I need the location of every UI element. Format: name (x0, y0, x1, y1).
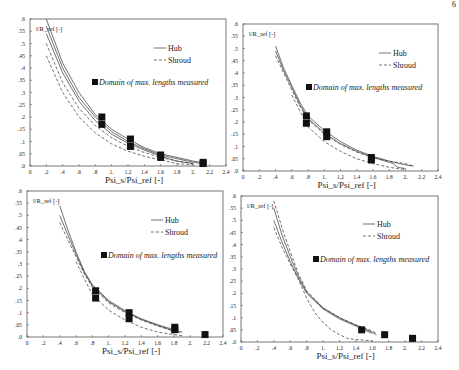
annotation-marker-icon (92, 79, 98, 85)
measured-domain-marker (126, 315, 133, 322)
x-axis-label: Psi_s/Psi_ref [-] (102, 346, 160, 356)
y-tick-label: .6 (18, 188, 22, 194)
series-hub-line (60, 215, 174, 334)
legend-shroud-label: Shroud (393, 61, 416, 70)
y-tick-label: .0 (21, 163, 25, 169)
series-shroud-line (46, 56, 193, 165)
x-tick-label: .4 (272, 345, 276, 351)
y-tick-label: .15 (229, 303, 236, 309)
measured-domain-marker (126, 309, 133, 316)
annotation-marker-icon (101, 252, 107, 258)
x-tick-label: .2 (257, 174, 261, 180)
measured-domain-marker (127, 143, 134, 150)
x-tick-label: 2.2 (206, 169, 213, 175)
measured-domain-marker (157, 154, 164, 161)
x-tick-label: 0 (242, 174, 245, 180)
y-tick-label: .25 (15, 273, 22, 279)
x-tick-label: 2. (403, 174, 408, 180)
series-shroud-line (76, 262, 182, 336)
y-tick-label: .45 (18, 53, 25, 59)
y-tick-label: .1 (18, 310, 22, 316)
x-tick-label: .6 (288, 345, 292, 351)
x-tick-label: .6 (74, 340, 78, 346)
y-tick-label: .4 (234, 70, 238, 76)
chart-panel-top-left: .0.05.1.15.2.25.3.35.4.45.5.55.60.2.4.6.… (18, 16, 230, 185)
x-tick-label: 1.8 (174, 169, 181, 175)
annotation-marker-icon (306, 84, 312, 90)
x-tick-label: .8 (306, 174, 310, 180)
y-tick-label: .5 (18, 212, 22, 218)
y-tick-label: .3 (234, 95, 238, 101)
x-tick-label: 2.4 (220, 340, 227, 346)
x-tick-label: 2. (191, 169, 196, 175)
y-tick-label: .0 (18, 334, 22, 340)
plot-frame (243, 24, 438, 171)
legend-hub-label: Hub (165, 216, 179, 225)
series-hub-line (274, 220, 373, 333)
y-tick-label: .4 (21, 65, 25, 71)
y-tick-label: .55 (18, 28, 25, 34)
annotation-label: Domain of max. lengths measured (107, 251, 218, 260)
y-tick-label: .15 (15, 298, 22, 304)
x-tick-label: 2. (188, 340, 193, 346)
y-tick-label: .45 (15, 225, 22, 231)
x-tick-label: 2.2 (418, 174, 425, 180)
y-tick-label: .0 (232, 339, 236, 345)
series-shroud-line (274, 201, 377, 334)
chart-panel-top-right: .0.05.1.15.2.25.3.35.4.45.5.55.60.2.4.6.… (231, 21, 442, 190)
series-hub-line (60, 206, 183, 333)
y-axis-label: l/R_ref [-] (33, 197, 60, 205)
y-tick-label: .55 (15, 200, 22, 206)
series-hub-line (274, 208, 377, 335)
series-shroud-line (276, 56, 414, 166)
x-tick-label: .4 (61, 169, 65, 175)
x-axis-label: Psi_s/Psi_ref [-] (105, 175, 163, 185)
y-tick-label: .55 (231, 33, 238, 39)
y-tick-label: .05 (229, 327, 236, 333)
y-tick-label: .45 (231, 58, 238, 64)
measured-domain-marker (98, 121, 105, 128)
series-hub-line (46, 34, 193, 164)
y-tick-label: .25 (231, 107, 238, 113)
measured-domain-marker (202, 331, 209, 338)
x-tick-label: .4 (58, 340, 62, 346)
x-tick-label: .2 (41, 340, 45, 346)
x-tick-label: .6 (290, 174, 294, 180)
measured-domain-marker (303, 112, 310, 119)
y-tick-label: .3 (18, 261, 22, 267)
y-tick-label: .0 (234, 168, 238, 174)
measured-domain-marker (92, 287, 99, 294)
legend-hub-label: Hub (393, 49, 407, 58)
x-tick-label: .8 (305, 345, 309, 351)
y-tick-label: .6 (234, 21, 238, 27)
y-tick-label: .1 (232, 315, 236, 321)
x-tick-label: .2 (44, 169, 48, 175)
y-tick-label: .55 (229, 205, 236, 211)
y-tick-label: .35 (18, 77, 25, 83)
chart-grid: .0.05.1.15.2.25.3.35.4.45.5.55.60.2.4.6.… (0, 0, 459, 370)
x-tick-label: 1.8 (385, 345, 392, 351)
y-tick-label: .2 (232, 290, 236, 296)
y-tick-label: .05 (15, 322, 22, 328)
y-tick-label: .3 (232, 266, 236, 272)
y-tick-label: .15 (231, 131, 238, 137)
y-tick-label: .2 (21, 114, 25, 120)
series-shroud-line (274, 228, 373, 341)
annotation-label: Domain of max. lengths measured (319, 255, 430, 264)
legend-shroud-label: Shroud (165, 228, 188, 237)
measured-domain-marker (358, 326, 365, 333)
y-tick-label: .25 (229, 278, 236, 284)
plot-frame (241, 196, 438, 342)
x-tick-label: 2.4 (223, 169, 230, 175)
x-tick-label: 2.2 (418, 345, 425, 351)
x-tick-label: 0 (240, 345, 243, 351)
measured-domain-marker (303, 120, 310, 127)
x-tick-label: .6 (77, 169, 81, 175)
x-tick-label: .8 (93, 169, 97, 175)
y-tick-label: .6 (232, 193, 236, 199)
x-tick-label: .4 (273, 174, 277, 180)
x-tick-label: 1.8 (386, 174, 393, 180)
y-axis-label: l/R_ref [-] (249, 30, 276, 38)
y-tick-label: .4 (18, 237, 22, 243)
y-tick-label: .3 (21, 90, 25, 96)
